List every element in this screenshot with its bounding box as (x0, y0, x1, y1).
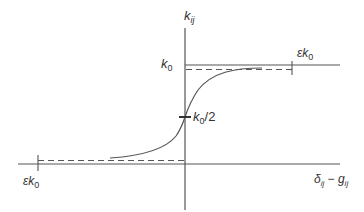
sigmoid-diagram: kij k0 k0/2 εk0 εk0 δij − gij (0, 0, 364, 212)
sigmoid-curve (110, 68, 262, 158)
upper-tolerance-label: εk0 (297, 46, 313, 62)
x-axis-label: δij − gij (314, 172, 348, 188)
y-axis-label: kij (184, 8, 195, 25)
lower-tolerance-label: εk0 (23, 174, 39, 190)
k0-label: k0 (161, 56, 173, 73)
midpoint-label: k0/2 (193, 109, 215, 126)
